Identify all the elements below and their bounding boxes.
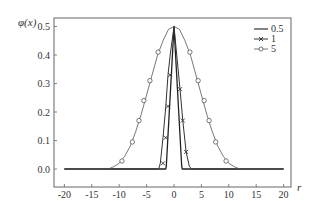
legend: 0.5 1 5	[254, 23, 284, 54]
x-tick-label: -15	[85, 189, 98, 200]
series-lines	[64, 27, 283, 170]
y-axis-label: φ(x)	[18, 16, 37, 29]
legend-circle-marker-icon	[259, 47, 263, 51]
y-tick-label: 0.2	[38, 107, 51, 118]
circle-marker-icon	[224, 159, 228, 163]
x-tick-label: 5	[199, 189, 204, 200]
circle-marker-icon	[207, 118, 211, 122]
series-line-0-5	[64, 27, 283, 170]
y-tick-label: 0.0	[38, 164, 51, 175]
x-tick-label: 0	[172, 189, 177, 200]
y-tick-label: 0.1	[38, 135, 51, 146]
y-tick-label: 0.3	[38, 78, 51, 89]
series-markers	[120, 50, 229, 165]
series-line-1	[64, 27, 283, 170]
axis-ticks: -20-15-10-5051015200.00.10.20.30.40.5	[38, 21, 289, 200]
cross-marker-icon	[164, 136, 168, 140]
circle-marker-icon	[130, 140, 134, 144]
chart: -20-15-10-5051015200.00.10.20.30.40.5 φ(…	[0, 0, 316, 201]
circle-marker-icon	[156, 50, 160, 54]
x-tick-label: -10	[113, 189, 126, 200]
circle-marker-icon	[120, 159, 124, 163]
circle-marker-icon	[142, 98, 146, 102]
series-line-5	[64, 27, 283, 170]
circle-marker-icon	[137, 118, 141, 122]
x-tick-label: 20	[279, 189, 289, 200]
circle-marker-icon	[188, 50, 192, 54]
cross-marker-icon	[161, 161, 165, 165]
legend-label-5: 5	[271, 43, 276, 54]
x-tick-label: 10	[224, 189, 234, 200]
y-tick-label: 0.4	[38, 50, 51, 61]
x-axis-label: r	[297, 181, 302, 193]
x-tick-label: 15	[251, 189, 261, 200]
circle-marker-icon	[196, 78, 200, 82]
circle-marker-icon	[148, 78, 152, 82]
circle-marker-icon	[213, 140, 217, 144]
x-tick-label: -20	[58, 189, 71, 200]
x-tick-label: -5	[142, 189, 150, 200]
y-tick-label: 0.5	[38, 21, 51, 32]
circle-marker-icon	[202, 98, 206, 102]
